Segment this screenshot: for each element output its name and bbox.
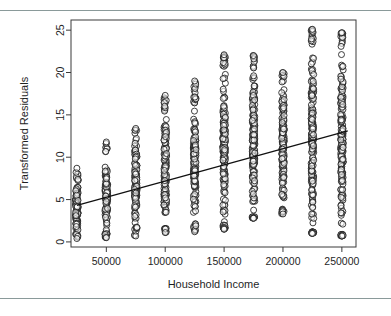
- data-point: [162, 195, 168, 201]
- data-point: [309, 211, 315, 217]
- regression-line: [77, 131, 348, 206]
- data-point: [340, 144, 346, 150]
- data-point: [309, 117, 315, 123]
- data-point: [103, 176, 109, 182]
- data-point: [279, 191, 285, 197]
- data-point: [221, 226, 227, 232]
- data-point: [220, 202, 226, 208]
- data-point: [309, 178, 315, 184]
- y-axis-title: Transformed Residuals: [18, 76, 30, 190]
- data-point: [279, 156, 285, 162]
- data-point: [222, 114, 228, 120]
- data-point: [192, 78, 198, 84]
- data-point: [309, 230, 315, 236]
- data-point: [338, 52, 344, 58]
- data-point: [132, 178, 138, 184]
- scatter-plot: 50000100000150000200000250000 0510152025…: [0, 0, 391, 316]
- data-point: [281, 175, 287, 181]
- data-point: [338, 194, 344, 200]
- data-point: [339, 171, 345, 177]
- data-point: [103, 149, 109, 155]
- data-point: [251, 53, 257, 59]
- data-point: [73, 213, 79, 219]
- data-point: [220, 157, 226, 163]
- data-point: [103, 139, 109, 145]
- data-point: [308, 36, 314, 42]
- data-point: [102, 168, 108, 174]
- data-point: [192, 120, 198, 126]
- data-point: [164, 151, 170, 157]
- x-tick-label: 150000: [207, 255, 242, 267]
- x-axis-title: Household Income: [168, 278, 260, 290]
- y-tick-label: 0: [54, 239, 66, 245]
- data-point: [105, 205, 111, 211]
- data-point: [161, 167, 167, 173]
- data-point: [250, 191, 256, 197]
- data-point: [190, 196, 196, 202]
- data-point: [220, 209, 226, 215]
- data-point: [221, 127, 227, 133]
- data-point: [162, 103, 168, 109]
- figure-root: 50000100000150000200000250000 0510152025…: [0, 0, 391, 316]
- data-point: [221, 52, 227, 58]
- data-point: [340, 63, 346, 69]
- data-point: [249, 118, 255, 124]
- data-point: [339, 187, 345, 193]
- data-point: [340, 101, 346, 107]
- data-point: [220, 171, 226, 177]
- y-tick-label: 10: [54, 151, 66, 163]
- data-point: [338, 117, 344, 123]
- data-point: [220, 95, 226, 101]
- data-point: [222, 190, 228, 196]
- data-point: [162, 92, 168, 98]
- data-point: [309, 93, 315, 99]
- data-point: [163, 117, 169, 123]
- data-point: [251, 126, 257, 132]
- data-point: [220, 76, 226, 82]
- data-point: [192, 94, 198, 100]
- y-tick-label: 15: [54, 109, 66, 121]
- data-point: [104, 220, 110, 226]
- data-point: [339, 178, 345, 184]
- x-tick-label: 100000: [148, 255, 183, 267]
- data-point: [193, 223, 199, 229]
- data-point: [338, 210, 344, 216]
- data-point: [280, 126, 286, 132]
- data-point: [308, 61, 314, 67]
- y-tick-label: 20: [54, 67, 66, 79]
- data-point: [252, 178, 258, 184]
- data-point: [132, 162, 138, 168]
- data-point: [103, 235, 109, 241]
- data-point: [310, 143, 316, 149]
- data-point: [163, 134, 169, 140]
- data-point: [220, 136, 226, 142]
- x-tick-label: 200000: [265, 255, 300, 267]
- data-point: [340, 157, 346, 163]
- data-point: [193, 147, 199, 153]
- data-point: [132, 204, 138, 210]
- data-point: [311, 132, 317, 138]
- data-point: [251, 215, 257, 221]
- data-point: [339, 233, 345, 239]
- data-point: [279, 79, 285, 85]
- data-point: [309, 110, 315, 116]
- data-point: [338, 43, 344, 49]
- data-point: [279, 135, 285, 141]
- y-axis-ticks: 0510152025: [54, 24, 71, 245]
- data-point: [280, 211, 286, 217]
- data-point: [132, 140, 138, 146]
- data-point: [133, 125, 139, 131]
- data-point: [221, 103, 227, 109]
- data-point: [133, 190, 139, 196]
- data-point: [309, 187, 315, 193]
- data-point: [279, 120, 285, 126]
- x-tick-label: 50000: [92, 255, 121, 267]
- data-point: [222, 147, 228, 153]
- data-point: [193, 208, 199, 214]
- data-point: [310, 126, 316, 132]
- data-point: [311, 157, 317, 163]
- data-point: [310, 205, 316, 211]
- data-point: [192, 229, 198, 235]
- data-point: [132, 156, 138, 162]
- y-tick-label: 5: [54, 196, 66, 202]
